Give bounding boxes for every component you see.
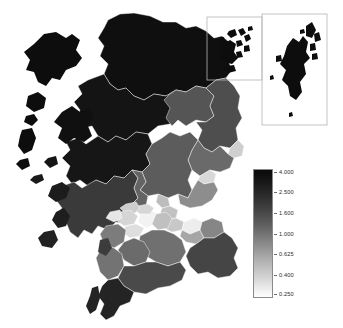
island-skye[interactable] (54, 106, 94, 144)
region-rhins-peninsula[interactable] (86, 286, 100, 314)
island-small-isles[interactable] (44, 156, 58, 168)
island-lewis-harris[interactable] (24, 32, 82, 86)
colorbar-legend: 4.000 2.500 1.600 1.000 0.625 0.400 0.25… (253, 169, 273, 298)
colorbar-ticks: 4.000 2.500 1.600 1.000 0.625 0.400 0.25… (274, 169, 334, 298)
colorbar-tick-label: 0.250 (279, 291, 294, 297)
tick-dash-icon (274, 254, 277, 255)
island-islay[interactable] (38, 230, 58, 248)
island-barra[interactable] (16, 158, 30, 170)
tick-dash-icon (274, 192, 277, 193)
colorbar-tick: 1.600 (274, 209, 294, 217)
colorbar-tick-label: 0.625 (279, 251, 294, 257)
island-tiree-coll[interactable] (30, 174, 44, 184)
tick-dash-icon (274, 172, 277, 173)
shetland-inset-group (262, 14, 327, 125)
colorbar-tick: 4.000 (274, 168, 294, 176)
tick-dash-icon (274, 213, 277, 214)
island-south-uist[interactable] (18, 128, 36, 154)
colorbar-gradient (253, 169, 273, 298)
colorbar-tick: 0.400 (274, 271, 294, 279)
colorbar-tick-label: 1.000 (279, 231, 294, 237)
colorbar-tick-label: 1.600 (279, 210, 294, 216)
tick-dash-icon (274, 275, 277, 276)
island-benbecula[interactable] (24, 114, 38, 126)
colorbar-tick: 2.500 (274, 188, 294, 196)
island-north-uist[interactable] (26, 92, 46, 112)
colorbar-tick-label: 2.500 (279, 189, 294, 195)
map-regions (16, 13, 244, 320)
colorbar-tick-label: 0.400 (279, 272, 294, 278)
tick-dash-icon (274, 294, 277, 295)
choropleth-figure: 4.000 2.500 1.600 1.000 0.625 0.400 0.25… (0, 0, 343, 328)
shetland-islands[interactable] (270, 22, 321, 117)
colorbar-tick: 0.625 (274, 250, 294, 258)
tick-dash-icon (274, 234, 277, 235)
colorbar-tick: 0.250 (274, 290, 294, 298)
colorbar-tick-label: 4.000 (279, 169, 294, 175)
colorbar-tick: 1.000 (274, 230, 294, 238)
